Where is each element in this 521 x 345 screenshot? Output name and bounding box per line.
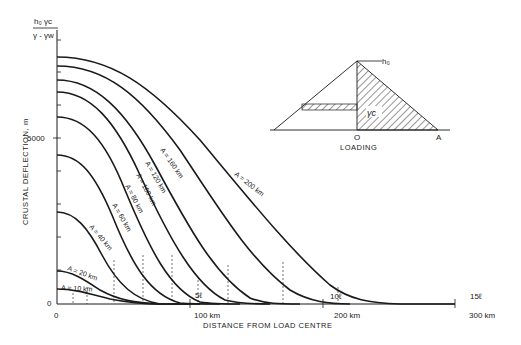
ell-5: 5ℓ [195, 291, 202, 300]
x-tick-200: 200 km [334, 311, 361, 320]
x-tick-300: 300 km [469, 311, 496, 320]
inset-density-label: γc [367, 108, 377, 118]
curve-labels: A = 200 km A = 160 km A = 120 km A = 100… [61, 147, 266, 293]
flexure-chart: h₀ γc γ - γw 5000 0 CRUSTAL DEFLECTION, … [0, 0, 521, 345]
inset-title: LOADING [340, 143, 377, 152]
x-tick-100: 100 km [194, 311, 221, 320]
x-tick-0: 0 [54, 311, 59, 320]
ell-15: 15ℓ [470, 292, 482, 301]
x-axis-label: DISTANCE FROM LOAD CENTRE [203, 321, 332, 330]
fraction-numerator: h₀ γc [34, 17, 52, 26]
inset-origin-label: O [354, 133, 360, 142]
ell-10: 10ℓ [330, 292, 342, 301]
y-tick-0: 0 [47, 299, 52, 308]
x-axis: 0 100 km 200 km 300 km 5ℓ 10ℓ 15ℓ DISTAN… [54, 291, 496, 330]
fraction-denominator: γ - γw [33, 31, 54, 40]
inset-apex-label: h₀ [382, 57, 390, 66]
curve-a160 [57, 66, 350, 304]
label-a10: A = 10 km [61, 284, 93, 293]
inset-edge-label: A [436, 133, 442, 142]
y-axis: 5000 0 CRUSTAL DEFLECTION, m [21, 30, 61, 308]
label-a60: A = 60 km [111, 202, 133, 233]
label-a200: A = 200 km [233, 170, 265, 197]
loading-inset: h₀ γc O A LOADING [270, 57, 450, 152]
ylabel-fraction: h₀ γc γ - γw [33, 17, 58, 40]
y-axis-label: CRUSTAL DEFLECTION, m [21, 118, 30, 225]
